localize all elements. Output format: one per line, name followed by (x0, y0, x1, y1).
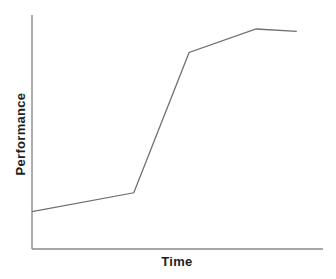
y-axis-label: Performance (13, 93, 28, 176)
x-axis-label: Time (161, 254, 192, 269)
plot-area (0, 0, 336, 279)
performance-time-chart: Performance Time (0, 0, 336, 279)
performance-line (32, 29, 297, 212)
